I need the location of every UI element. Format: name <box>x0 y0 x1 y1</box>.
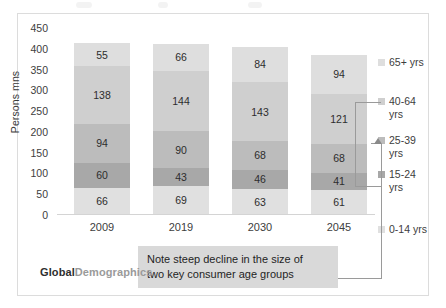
bar-segment[interactable]: 61 <box>311 190 367 215</box>
legend-label: 0-14 yrs <box>389 223 427 236</box>
brand-logo-light: Demographics <box>75 266 153 278</box>
bar-segment[interactable]: 46 <box>232 170 288 189</box>
x-axis-tick: 2009 <box>62 221 142 233</box>
top-edge-artifact <box>76 2 92 8</box>
bar-segment[interactable]: 144 <box>153 71 209 131</box>
callout-connector-vertical <box>381 143 382 279</box>
bar-segment-value: 84 <box>254 59 266 70</box>
bar-segment-value: 63 <box>254 197 266 208</box>
plot-area: 5513894606666144904369841436846639412168… <box>57 28 375 215</box>
bar-segment-value: 66 <box>96 196 108 207</box>
y-axis-tick: 450 <box>8 23 48 33</box>
y-axis-tick: 150 <box>8 148 48 158</box>
x-axis-line <box>57 214 375 215</box>
legend-item[interactable]: 15-24 yrs <box>378 168 416 193</box>
brand-logo: GlobalDemographics <box>40 266 152 278</box>
y-axis-tick: 350 <box>8 65 48 75</box>
bar-segment-value: 66 <box>175 52 187 63</box>
legend-label: 15-24 yrs <box>389 168 416 193</box>
stacked-bar-2045[interactable]: 94121684161 <box>311 55 367 215</box>
callout-bracket-bottom <box>355 186 381 187</box>
bar-segment[interactable]: 94 <box>311 55 367 94</box>
callout-bracket-side <box>355 102 356 187</box>
bar-segment-value: 61 <box>333 197 345 208</box>
brand-logo-strong: Global <box>40 266 75 278</box>
bar-segment[interactable]: 41 <box>311 173 367 190</box>
bar-segment[interactable]: 138 <box>74 66 130 123</box>
bar-segment-value: 43 <box>175 172 187 183</box>
bar-segment-value: 55 <box>96 50 108 61</box>
legend-label: 40-64 yrs <box>389 95 416 120</box>
x-axis-tick: 2045 <box>299 221 379 233</box>
bar-segment[interactable]: 43 <box>153 168 209 186</box>
bar-segment-value: 138 <box>93 90 111 101</box>
stacked-bar-2009[interactable]: 55138946066 <box>74 43 130 215</box>
bar-segment[interactable]: 143 <box>232 82 288 141</box>
y-axis-tick: 200 <box>8 127 48 137</box>
bar-segment-value: 69 <box>175 195 187 206</box>
x-axis-tick: 2019 <box>141 221 221 233</box>
bar-segment-value: 60 <box>96 170 108 181</box>
stacked-bar-2019[interactable]: 66144904369 <box>153 44 209 215</box>
y-axis-tick: 100 <box>8 168 48 178</box>
stacked-bar-2030[interactable]: 84143684663 <box>232 47 288 215</box>
bar-segment[interactable]: 84 <box>232 47 288 82</box>
top-edge-artifact <box>248 2 262 8</box>
y-axis-tick: 300 <box>8 85 48 95</box>
top-edge-artifact <box>158 2 168 8</box>
legend-label: 25-39 yrs <box>389 134 416 159</box>
legend-item[interactable]: 65+ yrs <box>378 56 424 69</box>
bar-segment-value: 41 <box>333 176 345 187</box>
callout-box: Note steep decline in the size of two ke… <box>138 246 338 288</box>
y-axis-tick: 250 <box>8 106 48 116</box>
bar-segment[interactable]: 68 <box>311 144 367 172</box>
bar-segment-value: 68 <box>254 150 266 161</box>
bar-segment-value: 94 <box>333 69 345 80</box>
legend-item[interactable]: 25-39 yrs <box>378 134 416 159</box>
bar-segment-value: 94 <box>96 138 108 149</box>
bar-segment[interactable]: 66 <box>74 188 130 215</box>
y-axis-tick: 0 <box>8 210 48 220</box>
legend-label: 65+ yrs <box>389 56 424 69</box>
chart-screenshot: Persons mns 450400350300250200150100500 … <box>0 0 446 308</box>
y-axis-tick: 50 <box>8 189 48 199</box>
legend-swatch-icon <box>378 59 385 66</box>
bar-segment[interactable]: 66 <box>153 44 209 71</box>
bar-segment[interactable]: 55 <box>74 43 130 66</box>
x-axis-tick: 2030 <box>220 221 300 233</box>
callout-line-2: two key consumer age groups <box>147 267 338 282</box>
bar-segment[interactable]: 68 <box>232 141 288 169</box>
bar-segment-value: 46 <box>254 174 266 185</box>
y-axis-tick: 400 <box>8 44 48 54</box>
bar-segment[interactable]: 90 <box>153 131 209 168</box>
bar-segment[interactable]: 94 <box>74 124 130 163</box>
legend-item[interactable]: 0-14 yrs <box>378 223 427 236</box>
callout-connector-horizontal <box>338 278 382 279</box>
legend-item[interactable]: 40-64 yrs <box>378 95 416 120</box>
bar-segment[interactable]: 63 <box>232 189 288 215</box>
bar-segment-value: 68 <box>333 153 345 164</box>
bar-segment-value: 144 <box>172 96 190 107</box>
bar-segment-value: 143 <box>251 107 269 118</box>
bar-segment[interactable]: 60 <box>74 163 130 188</box>
callout-bracket-top <box>355 102 381 103</box>
callout-line-1: Note steep decline in the size of <box>147 252 338 267</box>
bar-segment[interactable]: 69 <box>153 186 209 215</box>
bar-segment-value: 121 <box>330 114 348 125</box>
bar-segment-value: 90 <box>175 145 187 156</box>
